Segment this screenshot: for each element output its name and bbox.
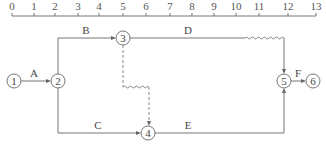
tick-label: 6 <box>143 0 149 12</box>
node-label: 3 <box>120 32 126 44</box>
activity-label-f: F <box>295 67 301 79</box>
tick-label: 5 <box>120 0 126 12</box>
activity-label-b: B <box>82 24 89 36</box>
node-3: 3 <box>116 31 130 45</box>
tick-label: 8 <box>189 0 195 12</box>
tick-label: 7 <box>167 0 173 12</box>
node-2: 2 <box>51 74 65 88</box>
node-label: 4 <box>145 127 151 139</box>
arrowhead-icon <box>147 121 151 126</box>
arrowhead-icon <box>301 79 306 83</box>
tick-label: 9 <box>211 0 217 12</box>
activity-f: F <box>291 67 306 83</box>
tick-label: 11 <box>254 0 265 12</box>
node-6: 6 <box>306 74 320 88</box>
tick-label: 4 <box>96 0 102 12</box>
tick-label: 10 <box>231 0 243 12</box>
activity-a: A <box>21 67 51 83</box>
node-label: 5 <box>281 75 287 87</box>
arrowhead-icon <box>46 79 51 83</box>
node-label: 1 <box>11 75 17 87</box>
dummy-activity <box>123 45 151 126</box>
node-5: 5 <box>277 74 291 88</box>
arrowhead-icon <box>282 88 286 93</box>
tick-label: 2 <box>52 0 58 12</box>
free-float-wave <box>245 37 284 39</box>
time-scaled-network-diagram: 012345678910111213 A B C D E <box>0 0 326 151</box>
node-label: 6 <box>310 75 316 87</box>
activity-label-a: A <box>30 67 38 79</box>
node-1: 1 <box>7 74 21 88</box>
tick-label: 0 <box>9 0 15 12</box>
tick-label: 12 <box>283 0 294 12</box>
tick-label: 3 <box>75 0 81 12</box>
activity-e: E <box>155 88 286 133</box>
timescale: 012345678910111213 <box>9 0 322 16</box>
activity-d: D <box>130 24 286 74</box>
activity-label-e: E <box>185 119 192 131</box>
arrowhead-icon <box>282 69 286 74</box>
free-float-wave <box>123 86 148 88</box>
activity-c: C <box>58 88 141 135</box>
activity-label-c: C <box>94 119 101 131</box>
tick-label: 13 <box>311 0 323 12</box>
tick-label: 1 <box>31 0 37 12</box>
activity-label-d: D <box>184 24 192 36</box>
activity-b: B <box>58 24 116 74</box>
node-4: 4 <box>141 126 155 140</box>
node-label: 2 <box>55 75 61 87</box>
arrowhead-icon <box>111 36 116 40</box>
nodes: 123456 <box>7 31 320 140</box>
arrowhead-icon <box>136 131 141 135</box>
